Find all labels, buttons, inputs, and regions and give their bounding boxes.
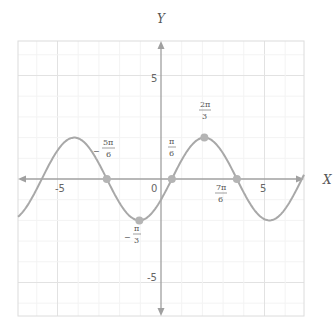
- key-point-marker: [168, 175, 176, 183]
- label-2pi-3: 2π 3: [199, 100, 211, 121]
- svg-text:3: 3: [134, 236, 139, 245]
- label-7pi-6: 7π 6: [215, 183, 227, 204]
- svg-text:6: 6: [169, 149, 174, 158]
- ytick-5: 5: [151, 73, 157, 84]
- svg-text:π: π: [169, 137, 174, 146]
- svg-text:π: π: [134, 224, 139, 233]
- key-point-marker: [200, 134, 208, 142]
- arrow-down-icon: [158, 308, 165, 316]
- svg-text:−: −: [124, 233, 131, 242]
- label-neg-5pi-6: − 5π 6: [93, 138, 115, 159]
- label-pi-6: π 6: [168, 137, 176, 158]
- svg-text:7π: 7π: [216, 183, 226, 192]
- origin-label: 0: [151, 183, 157, 194]
- xtick-5: 5: [260, 183, 266, 194]
- xtick-neg5: -5: [55, 183, 65, 194]
- svg-text:3: 3: [202, 112, 207, 121]
- x-axis-label: X: [322, 173, 332, 187]
- svg-text:6: 6: [218, 195, 223, 204]
- label-neg-pi-3: − π 3: [124, 224, 141, 245]
- svg-text:6: 6: [106, 150, 111, 159]
- svg-text:−: −: [93, 147, 100, 156]
- key-point-marker: [233, 175, 241, 183]
- key-point-marker: [103, 175, 111, 183]
- ytick-neg5: -5: [147, 272, 157, 283]
- arrow-left-icon: [18, 176, 26, 183]
- svg-text:2π: 2π: [200, 100, 210, 109]
- y-axis-label: Y: [157, 12, 166, 26]
- svg-text:5π: 5π: [103, 138, 113, 147]
- arrow-up-icon: [158, 41, 165, 49]
- chart-canvas: X Y -5 0 5 5 -5 − 5π 6 − π 3 π 6 2π 3 7π…: [0, 0, 334, 332]
